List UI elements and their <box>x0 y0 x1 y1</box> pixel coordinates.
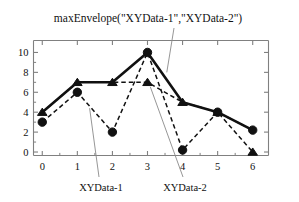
x-tick-label: 1 <box>75 161 80 172</box>
y-tick-label: 6 <box>23 87 28 98</box>
y-tick-label: 2 <box>23 127 28 138</box>
annotation-maxenvelope: maxEnvelope("XYData-1","XYData-2") <box>54 12 243 25</box>
data-point-circle <box>178 146 186 154</box>
label-xydata-1: XYData-1 <box>79 182 123 193</box>
chart-canvas: 0123456 0246810 maxEnvelope("XYData-1","… <box>0 0 299 202</box>
x-tick-label: 6 <box>250 161 255 172</box>
data-point-circle <box>108 128 116 136</box>
y-tick-label: 10 <box>18 47 29 58</box>
label-xydata-2: XYData-2 <box>163 182 207 193</box>
chart-background <box>0 0 299 202</box>
data-point-circle <box>143 48 151 56</box>
x-tick-label: 0 <box>40 161 45 172</box>
y-tick-label: 8 <box>23 67 28 78</box>
data-point-circle <box>249 126 257 134</box>
x-tick-label: 2 <box>110 161 115 172</box>
figure-root: 0123456 0246810 maxEnvelope("XYData-1","… <box>0 0 299 202</box>
x-tick-label: 3 <box>145 161 150 172</box>
x-tick-label: 5 <box>215 161 220 172</box>
y-tick-label: 0 <box>23 147 28 158</box>
y-tick-label: 4 <box>23 107 29 118</box>
data-point-circle <box>38 118 46 126</box>
data-point-circle <box>73 88 81 96</box>
